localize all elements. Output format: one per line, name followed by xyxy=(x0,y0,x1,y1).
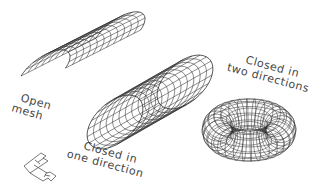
open-mesh-half-cylinder xyxy=(21,12,145,76)
torus-label: Closed in two directions xyxy=(226,49,314,95)
closed-one-direction-cylinder xyxy=(87,55,213,149)
closed-two-directions-torus xyxy=(202,99,296,162)
open-mesh-label: Open mesh xyxy=(10,90,53,124)
cylinder-label: Closed in one direction xyxy=(66,136,148,181)
mesh-types-diagram: Open mesh Closed in one direction Closed… xyxy=(0,0,327,194)
ucs-icon xyxy=(24,153,56,181)
